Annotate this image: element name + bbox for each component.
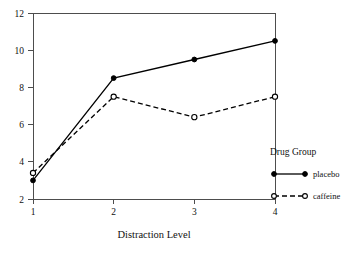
legend-marker-caffeine-start — [272, 194, 277, 199]
y-tick-label-8: 8 — [19, 83, 24, 93]
chart-svg: 2 4 6 8 10 12 1 2 3 4 Distraction Level — [0, 0, 347, 253]
y-tick-label-4: 4 — [19, 157, 24, 167]
legend-marker-caffeine-end — [303, 194, 308, 199]
legend-label-placebo: placebo — [313, 169, 339, 179]
data-point — [192, 57, 197, 62]
y-tick-label-10: 10 — [15, 46, 25, 56]
x-tick-label-2: 2 — [111, 207, 116, 217]
data-point — [111, 94, 116, 99]
y-tick-label-6: 6 — [19, 120, 24, 130]
y-tick-label-2: 2 — [19, 195, 24, 205]
x-tick-label-1: 1 — [31, 207, 36, 217]
data-point — [273, 39, 278, 44]
legend-label-caffeine: caffeine — [313, 191, 340, 201]
data-point — [272, 94, 277, 99]
y-tick-label-12: 12 — [15, 9, 25, 19]
legend-marker-placebo-end — [303, 172, 308, 177]
data-point — [192, 115, 197, 120]
x-tick-label-4: 4 — [273, 207, 278, 217]
legend-marker-placebo-start — [272, 172, 277, 177]
chart-background — [0, 0, 347, 253]
data-point — [30, 170, 35, 175]
x-axis-title: Distraction Level — [117, 229, 190, 240]
chart-figure: 2 4 6 8 10 12 1 2 3 4 Distraction Level — [0, 0, 347, 253]
data-point — [31, 178, 36, 183]
x-tick-label-3: 3 — [192, 207, 197, 217]
data-point — [111, 76, 116, 81]
legend-title: Drug Group — [270, 147, 316, 157]
